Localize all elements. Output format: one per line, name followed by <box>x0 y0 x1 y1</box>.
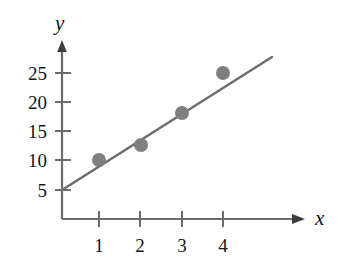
y-axis-arrow-icon <box>57 40 67 52</box>
data-points <box>92 66 230 167</box>
y-axis <box>57 40 67 219</box>
x-tick-label-4: 4 <box>207 236 239 255</box>
x-tick-label-3: 3 <box>166 236 198 255</box>
y-axis-label: y <box>55 13 64 34</box>
y-tick-label-15: 15 <box>6 122 47 141</box>
y-tick-label-20: 20 <box>6 93 47 112</box>
regression-line <box>62 57 272 190</box>
data-point <box>134 138 148 152</box>
x-tick-label-1: 1 <box>83 236 115 255</box>
scatter-plot-canvas <box>0 0 342 273</box>
y-tick-label-25: 25 <box>6 64 47 83</box>
y-tick-label-10: 10 <box>6 151 47 170</box>
y-tick-label-5: 5 <box>6 181 47 200</box>
data-point <box>175 106 189 120</box>
chart-figure: 25 20 15 10 5 1 2 3 4 y x <box>0 0 342 273</box>
data-point <box>216 66 230 80</box>
x-axis-label: x <box>315 208 324 229</box>
x-tick-label-2: 2 <box>124 236 156 255</box>
x-axis-arrow-icon <box>292 214 305 224</box>
data-point <box>92 153 106 167</box>
